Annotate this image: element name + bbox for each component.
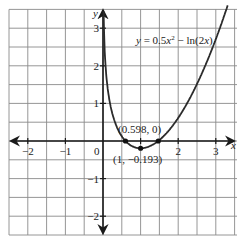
x-tick-label: 2 bbox=[175, 145, 181, 157]
y-axis-label: y bbox=[92, 7, 98, 19]
y-tick-label: −2 bbox=[87, 210, 99, 222]
point-marker bbox=[123, 138, 128, 143]
y-tick-label: 2 bbox=[94, 60, 100, 72]
y-tick-label: −1 bbox=[87, 173, 99, 185]
function-label-eq: = 0.5 bbox=[141, 34, 167, 46]
y-tick-label: 3 bbox=[94, 22, 100, 34]
function-label: y = 0.5x2 − ln(2x) bbox=[135, 34, 213, 47]
x-tick-label: 3 bbox=[213, 145, 219, 157]
y-tick-label: 1 bbox=[94, 97, 100, 109]
point-marker bbox=[138, 146, 143, 151]
function-label-close: ) bbox=[209, 34, 213, 47]
function-graph: −2−123−2−1123 x y 0 y = 0.5x2 − ln(2x) (… bbox=[0, 0, 237, 240]
x-axis-label: x bbox=[230, 139, 236, 151]
point-marker bbox=[156, 138, 161, 143]
annotation-root: (0.598, 0) bbox=[118, 123, 161, 136]
x-tick-label: −1 bbox=[60, 145, 72, 157]
x-tick-label: −2 bbox=[22, 145, 34, 157]
annotation-minimum: (1, −0.193) bbox=[113, 153, 163, 166]
function-label-minus-ln: − ln(2 bbox=[175, 34, 204, 47]
origin-label: 0 bbox=[94, 145, 100, 157]
